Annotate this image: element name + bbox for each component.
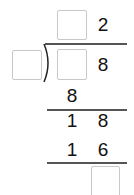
quotient-ones-digit: 2 bbox=[96, 15, 110, 35]
dividend-tens-input[interactable] bbox=[57, 49, 87, 80]
first-remainder-tens-digit: 1 bbox=[65, 111, 79, 131]
subtraction-line-1 bbox=[47, 109, 127, 111]
subtraction-line-2 bbox=[47, 162, 127, 164]
second-product-tens-digit: 1 bbox=[65, 140, 79, 160]
final-remainder-input[interactable] bbox=[91, 166, 120, 195]
second-product-ones-digit: 6 bbox=[96, 140, 110, 160]
division-bar bbox=[45, 43, 127, 45]
dividend-ones-digit: 8 bbox=[96, 55, 110, 75]
first-product-digit: 8 bbox=[65, 86, 79, 106]
division-bracket-icon bbox=[40, 43, 52, 83]
divisor-input[interactable] bbox=[12, 50, 42, 80]
quotient-tens-input[interactable] bbox=[57, 10, 87, 40]
first-remainder-ones-digit: 8 bbox=[96, 111, 110, 131]
